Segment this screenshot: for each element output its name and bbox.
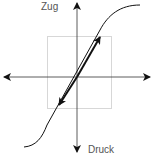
compression-label: Druck (88, 144, 114, 155)
tension-label: Zug (41, 1, 58, 12)
stress-strain-diagram: Zug Druck (0, 0, 156, 166)
tension-arrow (77, 37, 100, 77)
diagram-canvas (0, 0, 156, 166)
compression-arrow (59, 77, 77, 105)
s-curve (24, 5, 140, 147)
